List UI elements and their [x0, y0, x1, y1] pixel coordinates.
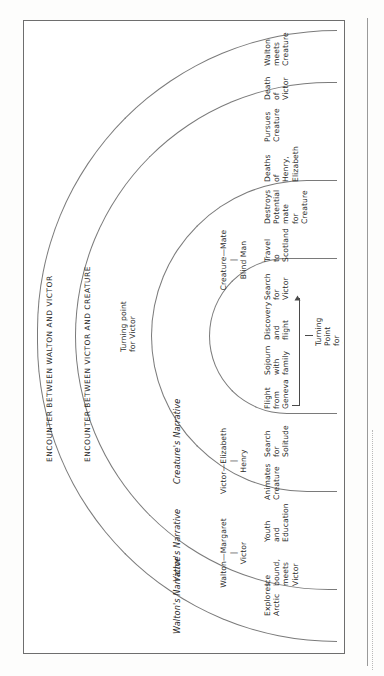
relationship-creature-mate-top: Creature—Mate	[219, 220, 228, 300]
turning-point-creature-tick	[305, 335, 313, 336]
event-search-for-solitude: Search for Solitude	[263, 421, 291, 457]
event-sojourn-with-family: Sojourn with family	[263, 343, 291, 375]
ring-label-victor: Victor's Narrative	[173, 509, 182, 582]
relationship-creature-mate-connector: |	[229, 220, 238, 300]
encounter-victor-creature-label: ENCOUNTER BETWEEN VICTOR AND CREATURE	[83, 232, 92, 462]
event-explores-arctic: Explores Arctic	[263, 586, 281, 616]
page-edge-dotted	[372, 430, 373, 670]
encounter-walton-victor-label: ENCOUNTER BETWEEN WALTON AND VICTOR	[45, 222, 54, 462]
event-discovery-and-flight: Discovery and flight	[263, 300, 291, 340]
diagram-canvas: Walton's Narrative Victor's Narrative Cr…	[23, 20, 343, 652]
relationship-victor-elizabeth-connector: |	[229, 422, 238, 500]
event-search-for-victor: Search for Victor	[263, 268, 291, 300]
event-travel-to-scotland: Travel to Scotland	[263, 226, 291, 262]
turning-point-creature-label: Turning Point for Creature	[314, 304, 343, 346]
relationship-walton-margaret-bottom: Victor	[239, 514, 248, 592]
relationship-walton-margaret-connector: |	[229, 514, 238, 592]
event-flight-from-geneva: Flight from Geneva	[263, 377, 291, 409]
relationship-creature-mate-bottom: Blind Man	[239, 220, 248, 300]
creature-timeline-start-tick	[292, 405, 299, 406]
event-ice-bound: Ice bound, meets Victor	[263, 554, 300, 586]
event-animates-creature: Animates Creature	[263, 460, 281, 500]
page-edge-line	[367, 18, 368, 666]
relationship-victor-elizabeth-top: Victor—Elizabeth	[219, 422, 228, 500]
relationship-victor-elizabeth-bottom: Henry	[239, 422, 248, 500]
relationship-walton-margaret-top: Walton—Margaret	[219, 514, 228, 592]
event-walton-meets-creature: Walton meets Creature	[263, 28, 291, 66]
creature-timeline-arrowhead	[294, 296, 300, 301]
figure-page: Walton's Narrative Victor's Narrative Cr…	[0, 0, 384, 676]
event-deaths-henry-elizabeth: Deaths of Henry, Elizabeth	[263, 144, 300, 182]
creature-timeline-axis	[299, 298, 300, 406]
event-pursues-creature: Pursues Creature	[263, 102, 281, 142]
event-destroys-potential-mate: Destroys Potential mate for Creature	[263, 184, 309, 224]
diagram-area: Walton's Narrative Victor's Narrative Cr…	[23, 20, 343, 652]
event-youth-education: Youth and Education	[263, 502, 291, 542]
event-death-of-victor: Death of Victor	[263, 68, 291, 100]
turning-point-victor-label: Turning point for Victor	[119, 262, 137, 352]
ring-label-creature: Creature's Narrative	[173, 399, 182, 484]
